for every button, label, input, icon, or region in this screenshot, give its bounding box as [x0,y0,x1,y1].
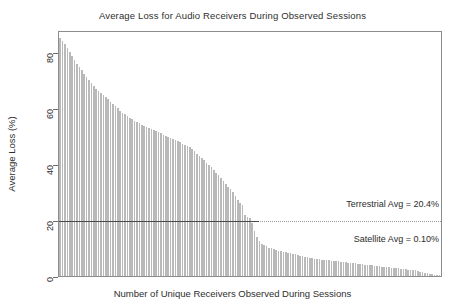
annotation-terrestrial-average: Terrestrial Avg = 20.4% [346,199,439,209]
annotation-satellite-average: Satellite Avg = 0.10% [354,234,439,244]
terrestrial-average-line-solid [59,221,259,222]
chart-figure: Average Loss for Audio Receivers During … [0,0,465,307]
y-axis-ticks: 020406080 [0,31,58,277]
x-axis-title: Number of Unique Receivers Observed Duri… [0,288,465,299]
y-tick-label: 80 [45,53,55,63]
y-tick-label: 40 [45,165,55,175]
y-tick-label: 60 [45,109,55,119]
y-tick-label: 20 [45,221,55,231]
chart-title: Average Loss for Audio Receivers During … [0,10,465,21]
y-tick-label: 0 [45,277,55,282]
